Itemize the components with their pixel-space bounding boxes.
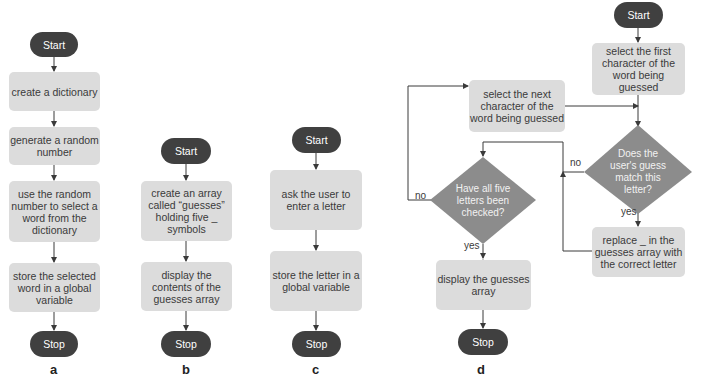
- a-step-store-word: store the selected word in a global vari…: [9, 263, 100, 312]
- d-step-display: display the guesses array: [436, 260, 531, 310]
- c-stop-terminal: Stop: [292, 331, 341, 357]
- label-yes-checked: yes: [464, 240, 480, 251]
- d-decision-checked-text: Have all five letters been checked?: [452, 182, 514, 220]
- label-no-checked: no: [415, 190, 426, 201]
- d-decision-match-text: Does the user's guess match this letter?: [604, 148, 672, 196]
- d-step-select-first: select the first character of the word b…: [592, 43, 685, 95]
- c-step-store-letter: store the letter in a global variable: [270, 251, 362, 311]
- a-step-create-dictionary: create a dictionary: [9, 72, 100, 111]
- a-step-generate-number: generate a random number: [9, 127, 100, 165]
- b-step-create-array: create an array called “guesses” holding…: [141, 181, 232, 241]
- a-stop-terminal: Stop: [30, 331, 78, 357]
- d-step-select-next: select the next character of the word be…: [469, 80, 565, 132]
- b-stop-terminal: Stop: [161, 331, 211, 357]
- c-step-ask-letter: ask the user to enter a letter: [270, 170, 362, 230]
- label-no-match: no: [570, 157, 581, 168]
- caption-c: c: [312, 362, 319, 377]
- caption-b: b: [182, 362, 190, 377]
- d-start-terminal: Start: [614, 2, 663, 28]
- label-yes-match: yes: [621, 206, 637, 217]
- d-stop-terminal: Stop: [458, 329, 508, 355]
- caption-a: a: [50, 362, 57, 377]
- b-step-display-array: display the contents of the guesses arra…: [141, 262, 232, 311]
- caption-d: d: [477, 362, 485, 377]
- d-step-replace: replace _ in the guesses array with the …: [592, 227, 685, 277]
- c-start-terminal: Start: [292, 127, 341, 153]
- a-step-select-word: use the random number to select a word f…: [9, 181, 100, 242]
- b-start-terminal: Start: [161, 138, 211, 164]
- a-start-terminal: Start: [30, 32, 78, 57]
